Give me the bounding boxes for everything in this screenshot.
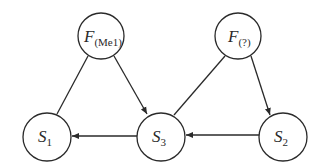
node-s3: S3: [137, 113, 185, 161]
edge-fme1-s1: [57, 56, 88, 114]
node-f-me1: F(Me1): [78, 13, 124, 59]
graph-diagram: F(Me1) F(?) S1 S3 S2: [0, 0, 321, 168]
node-f-unknown: F(?): [215, 13, 261, 59]
edge-fq-s2: [251, 56, 270, 115]
edge-fq-s3: [174, 56, 225, 115]
node-s1: S1: [23, 113, 71, 161]
edge-fme1-s3: [114, 56, 147, 114]
node-s2: S2: [259, 113, 307, 161]
